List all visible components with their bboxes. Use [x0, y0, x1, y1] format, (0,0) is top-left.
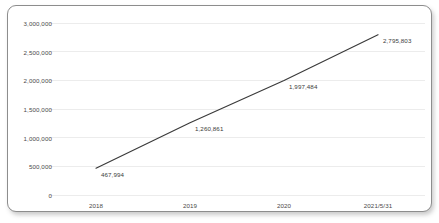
data-point-label: 2,795,803 [383, 37, 411, 44]
chart-svg [8, 6, 433, 213]
y-axis-tick-label: 1,500,000 [12, 106, 52, 113]
gridlines [49, 23, 425, 195]
x-axis-tick-label: 2020 [277, 202, 291, 209]
x-axis-tick-label: 2018 [89, 202, 103, 209]
y-axis-tick-label: 0 [12, 192, 52, 199]
line-chart-plot-area [8, 6, 433, 213]
y-axis-tick-label: 2,500,000 [12, 48, 52, 55]
data-point-label: 1,260,861 [195, 125, 223, 132]
x-axis-tick-label: 2019 [183, 202, 197, 209]
y-axis-tick-label: 2,000,000 [12, 77, 52, 84]
x-axis-tick-labels: 2018201920202021/5/31 [8, 202, 433, 216]
y-axis-tick-label: 1,000,000 [12, 134, 52, 141]
data-point-label: 1,997,484 [289, 83, 317, 90]
chart-card: 3,000,0002,500,0002,000,0001,500,0001,00… [7, 5, 432, 212]
y-axis-tick-label: 500,000 [12, 163, 52, 170]
data-point-label: 467,994 [101, 171, 124, 178]
y-axis-tick-labels: 3,000,0002,500,0002,000,0001,500,0001,00… [12, 6, 52, 213]
x-axis-tick-label: 2021/5/31 [364, 202, 392, 209]
y-axis-tick-label: 3,000,000 [12, 20, 52, 27]
series-line-1 [96, 35, 378, 168]
